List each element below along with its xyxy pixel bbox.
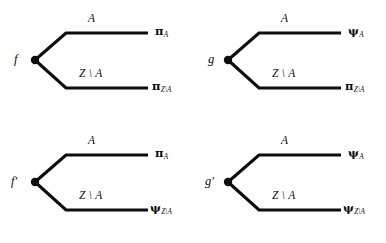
- lower-branch-label-top-right: Z \ A: [272, 68, 296, 80]
- fork-lines-bottom-left: [0, 122, 193, 243]
- vertex-dot: [224, 56, 232, 64]
- upper-endpoint-label-bottom-left: πA: [155, 148, 168, 162]
- upper-branch-line: [35, 155, 148, 182]
- lower-endpoint-label-bottom-right: ψZ\A: [343, 203, 365, 217]
- fork-diagram-top-left: f A Z \ A πA πZ\A: [0, 0, 193, 121]
- upper-endpoint-label-bottom-right: ψA: [348, 148, 364, 162]
- fork-diagram-bottom-right: g′ A Z \ A ψA ψZ\A: [193, 122, 386, 243]
- lower-endpoint-label-top-right: πZ\A: [345, 81, 365, 95]
- upper-branch-label-top-right: A: [281, 13, 288, 25]
- fork-lines-bottom-right: [193, 122, 386, 243]
- upper-branch-label-bottom-right: A: [281, 135, 288, 147]
- upper-branch-line: [228, 33, 341, 60]
- upper-endpoint-label-top-left: πA: [155, 26, 168, 40]
- lower-branch-label-bottom-right: Z \ A: [272, 190, 296, 202]
- upper-branch-label-top-left: A: [88, 13, 95, 25]
- vertex-dot: [31, 178, 39, 186]
- upper-branch-line: [35, 33, 148, 60]
- source-label-top-right: g: [208, 53, 214, 66]
- vertex-dot: [31, 56, 39, 64]
- lower-endpoint-label-top-left: πZ\A: [152, 81, 172, 95]
- fork-lines-top-right: [193, 0, 386, 121]
- upper-branch-line: [228, 155, 341, 182]
- lower-endpoint-label-bottom-left: ψZ\A: [150, 203, 172, 217]
- lower-branch-label-bottom-left: Z \ A: [79, 190, 103, 202]
- upper-branch-label-bottom-left: A: [88, 135, 95, 147]
- vertex-dot: [224, 178, 232, 186]
- lower-branch-label-top-left: Z \ A: [79, 68, 103, 80]
- source-label-bottom-left: f′: [11, 175, 17, 188]
- upper-endpoint-label-top-right: ψA: [348, 26, 364, 40]
- source-label-top-left: f: [14, 53, 17, 66]
- fork-lines-top-left: [0, 0, 193, 121]
- source-label-bottom-right: g′: [205, 175, 214, 188]
- figure-canvas: f A Z \ A πA πZ\A g A Z \ A ψA πZ\A f′ A…: [0, 0, 386, 243]
- fork-diagram-top-right: g A Z \ A ψA πZ\A: [193, 0, 386, 121]
- fork-diagram-bottom-left: f′ A Z \ A πA ψZ\A: [0, 122, 193, 243]
